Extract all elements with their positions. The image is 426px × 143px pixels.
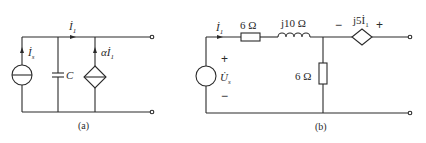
svg-text:j5İ1: j5İ1 (352, 14, 369, 29)
inductor-icon (278, 33, 310, 37)
circuit-figure: İs C İ1 αİ1 (a) (0, 0, 426, 143)
circuit-a: İs C İ1 αİ1 (a) (12, 20, 154, 132)
label-inductor: j10 Ω (280, 17, 306, 29)
dep-plus: + (376, 18, 383, 32)
source-plus: + (221, 52, 228, 66)
b-terminal-top (408, 35, 412, 39)
dependent-voltage-source-icon (352, 29, 372, 45)
svg-text:αİ1: αİ1 (101, 46, 114, 61)
voltage-source-icon (196, 66, 216, 86)
source-minus: − (221, 89, 228, 103)
capacitor-icon (52, 73, 64, 77)
current-source-icon (12, 65, 32, 85)
label-shunt-resistor: 6 Ω (295, 70, 311, 82)
svg-text:İs: İs (27, 46, 35, 61)
dependent-current-source-icon (84, 66, 106, 88)
circuit-b: + U̇s − İ1 6 Ω j10 Ω 6 Ω − j5İ1 (196, 14, 412, 133)
resistor-icon (319, 63, 327, 84)
label-j5i1: j5İ (352, 14, 366, 26)
a-terminal-bottom (150, 110, 154, 114)
dep-minus: − (335, 18, 342, 32)
svg-text:İ1: İ1 (68, 20, 76, 35)
label-series-resistor: 6 Ω (240, 19, 256, 31)
svg-text:İ1: İ1 (215, 21, 223, 36)
label-c: C (66, 69, 74, 81)
arrow-up-icon (93, 47, 97, 53)
b-terminal-bottom (408, 111, 412, 115)
a-terminal-top (150, 35, 154, 39)
svg-text:U̇s: U̇s (220, 71, 231, 86)
arrow-up-icon (20, 47, 24, 53)
resistor-icon (241, 33, 260, 41)
caption-b: (b) (315, 121, 327, 133)
caption-a: (a) (78, 120, 89, 132)
arrow-right-icon (70, 35, 76, 39)
